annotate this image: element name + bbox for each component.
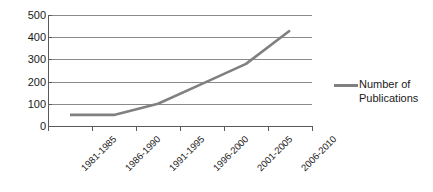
x-tick-label-1996-2000: 1996-2000	[211, 134, 250, 173]
x-tick-label-2001-2005: 2001-2005	[255, 134, 294, 173]
y-tick-label-400: 400	[2, 32, 46, 43]
x-tick-label-1991-1995: 1991-1995	[167, 134, 206, 173]
legend-swatch-number-of-publications	[334, 84, 358, 87]
plot-area	[48, 15, 312, 126]
y-tick-mark-300	[48, 59, 52, 60]
x-tick-mark-6	[312, 126, 313, 131]
gridline-300	[48, 59, 312, 60]
gridline-100	[48, 104, 312, 105]
gridline-200	[48, 82, 312, 83]
y-tick-mark-400	[48, 37, 52, 38]
x-tick-mark-2	[136, 126, 137, 131]
y-axis-labels: 500 400 300 200 100 0	[0, 0, 46, 192]
y-tick-label-500: 500	[2, 10, 46, 21]
legend-label-line1: Number of	[359, 78, 410, 90]
x-tick-label-1986-1990: 1986-1990	[123, 134, 162, 173]
x-tick-label-2006-2010: 2006-2010	[299, 134, 338, 173]
y-tick-mark-200	[48, 82, 52, 83]
legend-label-number-of-publications: Number of Publications	[359, 78, 433, 105]
legend: Number of Publications	[334, 78, 433, 105]
x-tick-mark-4	[224, 126, 225, 131]
y-tick-mark-100	[48, 104, 52, 105]
y-tick-label-100: 100	[2, 99, 46, 110]
legend-label-line2: Publications	[359, 92, 418, 104]
x-tick-mark-1	[92, 126, 93, 131]
y-tick-mark-500	[48, 15, 52, 16]
x-tick-mark-3	[180, 126, 181, 131]
x-tick-mark-5	[268, 126, 269, 131]
x-tick-mark-0	[48, 126, 49, 131]
y-tick-label-0: 0	[2, 121, 46, 132]
y-tick-label-300: 300	[2, 54, 46, 65]
line-chart: 500 400 300 200 100 0 1981-1985 1986-199…	[0, 0, 433, 192]
y-tick-label-200: 200	[2, 77, 46, 88]
x-tick-label-1981-1985: 1981-1985	[79, 134, 118, 173]
y-axis-line	[48, 15, 49, 127]
gridline-500	[48, 15, 312, 16]
gridline-400	[48, 37, 312, 38]
